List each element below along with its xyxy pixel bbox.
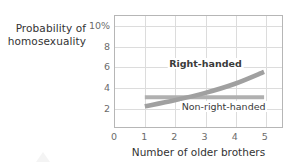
y-axis-title-line-2: homosexuality	[6, 35, 86, 48]
x-tick-label: 3	[201, 131, 207, 142]
x-axis-tick-labels: 012345	[114, 131, 283, 145]
x-axis-title: Number of older brothers	[114, 146, 283, 158]
y-tick-label: 8	[76, 40, 110, 51]
series-label-non-right-handed: Non-right-handed	[180, 101, 268, 112]
y-axis-title-line-1: Probability of	[6, 22, 86, 35]
y-tick-label: 6	[76, 61, 110, 72]
plot-area: Right-handed Non-right-handed	[114, 15, 283, 128]
y-tick-label: 2	[76, 102, 110, 113]
watermark-icon	[36, 152, 50, 162]
chart-figure: Probability of homosexuality 246810% Rig…	[0, 0, 295, 164]
x-tick-label: 5	[262, 131, 268, 142]
y-axis-tick-labels: 246810%	[76, 15, 110, 128]
x-tick-label: 1	[141, 131, 147, 142]
x-tick-label: 4	[232, 131, 238, 142]
x-tick-label: 2	[171, 131, 177, 142]
x-tick-label: 0	[111, 131, 117, 142]
y-tick-label: 10%	[76, 20, 110, 31]
y-axis-title: Probability of homosexuality	[6, 22, 86, 48]
y-tick-label: 4	[76, 81, 110, 92]
series-label-right-handed: Right-handed	[167, 58, 244, 69]
